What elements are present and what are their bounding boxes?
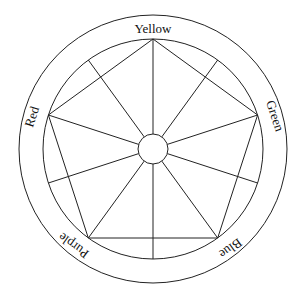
label-yellow: Yellow <box>135 21 173 36</box>
label-green: Green <box>263 98 287 133</box>
center-circle <box>138 134 168 164</box>
color-wheel-diagram: Yellow Green Blue Purple Red <box>0 0 306 289</box>
label-red: Red <box>21 104 42 129</box>
label-blue: Blue <box>216 235 245 262</box>
